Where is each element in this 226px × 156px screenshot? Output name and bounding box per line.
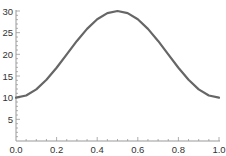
x-tick-label: 0.0 [9, 144, 22, 155]
y-tick-label: 15 [2, 71, 13, 82]
series-line [16, 11, 219, 98]
y-tick-label: 10 [2, 92, 13, 103]
y-tick-label: 20 [2, 49, 13, 60]
line-chart: 51015202530 0.00.20.40.60.81.0 [0, 0, 226, 156]
x-tick-label: 0.2 [50, 144, 63, 155]
x-tick-label: 0.6 [131, 144, 144, 155]
y-tick-label: 5 [8, 114, 13, 125]
y-tick-label: 25 [2, 27, 13, 38]
x-axis: 0.00.20.40.60.81.0 [9, 137, 225, 155]
x-tick-label: 0.8 [172, 144, 185, 155]
x-tick-label: 0.4 [91, 144, 104, 155]
y-tick-label: 30 [2, 6, 13, 17]
y-axis: 51015202530 [2, 6, 20, 142]
x-tick-label: 1.0 [212, 144, 225, 155]
plot-area [16, 11, 219, 98]
